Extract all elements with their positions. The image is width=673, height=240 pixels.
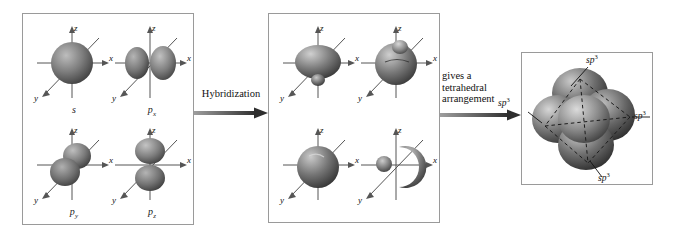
svg-text:z: z — [397, 125, 402, 135]
svg-text:z: z — [319, 125, 324, 135]
orbital-cell-hybrid-1: z x y — [277, 18, 363, 124]
svg-text:z: z — [73, 23, 78, 33]
svg-text:z: z — [151, 125, 156, 135]
orbital-graphic-s: z x y — [31, 18, 117, 106]
svg-text:x: x — [432, 155, 437, 165]
orbital-graphic-px: z x y — [109, 18, 195, 106]
orbital-cell-px: z x y px — [109, 18, 195, 124]
svg-text:z: z — [319, 23, 324, 33]
svg-text:y: y — [33, 93, 38, 103]
svg-text:y: y — [279, 195, 284, 205]
orbital-graphic-hybrid-1: z x y — [277, 18, 363, 106]
orbital-graphic-hybrid-3: z x y — [277, 120, 363, 208]
orbital-cell-py: z x y py — [31, 120, 117, 226]
orbital-cell-hybrid-3: z x y — [277, 120, 363, 226]
orbital-label-s: s — [31, 104, 117, 115]
orbital-graphic-hybrid-4: z x y — [355, 120, 441, 208]
orbital-graphic-hybrid-2: z x y — [355, 18, 441, 106]
orbital-cell-pz: z x y pz — [109, 120, 195, 226]
svg-text:y: y — [33, 195, 38, 205]
svg-text:y: y — [279, 93, 284, 103]
sp3-label-right: sp3 — [634, 109, 646, 121]
orbital-label-py: py — [31, 206, 117, 220]
orbital-cell-hybrid-4: z x y — [355, 120, 441, 226]
orbital-cell-s: z x y s — [31, 18, 117, 124]
svg-text:z: z — [73, 125, 78, 135]
svg-text:y: y — [111, 195, 116, 205]
tetrahedral-arrangement-panel: sp3 sp3 sp3 sp3 — [521, 52, 653, 185]
svg-text:x: x — [186, 53, 191, 63]
svg-text:z: z — [151, 23, 156, 33]
sp3-label-top: sp3 — [586, 53, 598, 65]
svg-text:z: z — [397, 23, 402, 33]
orbital-label-pz: pz — [109, 206, 195, 220]
orbital-graphic-py: z x y — [31, 120, 117, 208]
atomic-orbitals-panel: z x y s — [22, 13, 194, 225]
sp3-label-bottom: sp3 — [598, 171, 610, 183]
tetrahedral-model-graphic — [522, 53, 652, 184]
orbital-label-px: px — [109, 104, 195, 118]
svg-text:x: x — [432, 53, 437, 63]
hybridization-arrow-label: Hybridization — [194, 88, 268, 100]
svg-text:y: y — [111, 93, 116, 103]
svg-text:y: y — [357, 195, 362, 205]
svg-text:y: y — [357, 93, 362, 103]
orbital-graphic-pz: z x y — [109, 120, 195, 208]
svg-text:x: x — [186, 155, 191, 165]
hybridization-arrow: Hybridization — [194, 88, 268, 128]
sp3-label-left: sp3 — [498, 96, 510, 108]
hybrid-orbitals-panel: z x y — [268, 13, 440, 223]
orbital-cell-hybrid-2: z x y — [355, 18, 441, 124]
